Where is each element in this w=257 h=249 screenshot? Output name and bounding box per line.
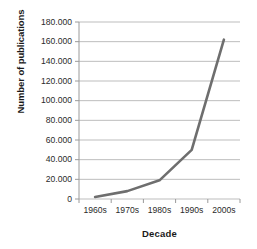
data-series-line <box>95 40 224 197</box>
y-axis-tick-marks <box>75 22 79 199</box>
gridlines <box>79 22 240 199</box>
x-tick-label: 2000s <box>204 205 244 215</box>
x-axis-tick-marks <box>79 199 240 203</box>
x-axis-title: Decade <box>79 228 240 239</box>
chart-container: Number of publications 020.00040.00060.0… <box>0 0 257 249</box>
